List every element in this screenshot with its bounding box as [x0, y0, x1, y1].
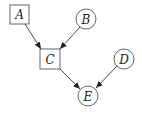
node-a: A: [10, 5, 29, 24]
node-b: B: [76, 9, 96, 29]
node-d-label: D: [118, 53, 129, 67]
edge-a-to-c: [25, 24, 41, 49]
edge-d-to-e: [96, 66, 117, 88]
node-e-label: E: [83, 90, 93, 104]
node-b-label: B: [81, 13, 91, 27]
edge-b-to-c: [60, 27, 80, 49]
node-c-label: C: [45, 53, 54, 67]
node-d: D: [114, 49, 134, 69]
edge-c-to-e: [59, 68, 80, 89]
node-e: E: [78, 86, 98, 106]
diagram-canvas: A B C D E: [0, 0, 142, 115]
node-c: C: [40, 49, 60, 69]
node-a-label: A: [14, 8, 24, 22]
